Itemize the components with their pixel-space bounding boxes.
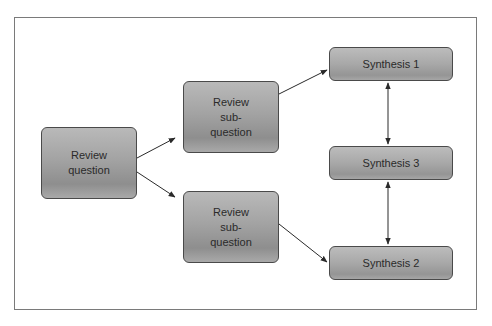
node-label: Synthesis 1	[363, 57, 420, 72]
node-synthesis-3: Synthesis 3	[329, 146, 453, 180]
node-review-subquestion-top: Review sub- question	[183, 81, 279, 153]
node-label: Synthesis 2	[363, 256, 420, 271]
node-label-line: sub-	[210, 220, 252, 235]
node-review-question: Review question	[41, 127, 137, 199]
node-label-line: Review	[210, 95, 252, 110]
node-label: Synthesis 3	[363, 156, 420, 171]
node-label-line: Review	[210, 205, 252, 220]
node-label-line: question	[68, 163, 110, 178]
node-synthesis-1: Synthesis 1	[329, 47, 453, 81]
node-label-line: Review	[68, 148, 110, 163]
node-label-line: sub-	[210, 110, 252, 125]
node-review-subquestion-bottom: Review sub- question	[183, 191, 279, 263]
node-label-line: question	[210, 125, 252, 140]
node-label-line: question	[210, 235, 252, 250]
node-synthesis-2: Synthesis 2	[329, 246, 453, 280]
